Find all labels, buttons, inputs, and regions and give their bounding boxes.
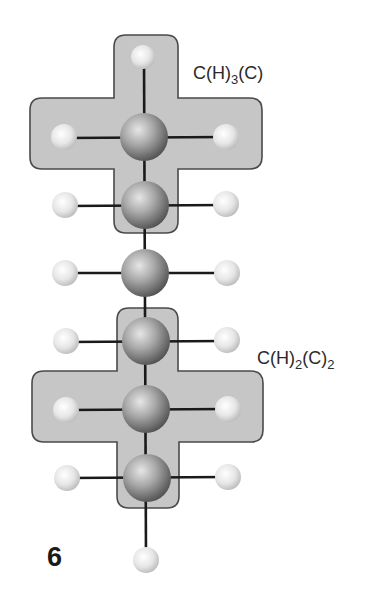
label-text: (C) bbox=[238, 63, 263, 83]
hydrogen-atom bbox=[213, 191, 239, 217]
label-subscript: 2 bbox=[327, 357, 334, 372]
carbon-atom bbox=[122, 385, 170, 433]
carbon-atom bbox=[122, 317, 170, 365]
hydrogen-atom bbox=[214, 327, 240, 353]
hydrogen-atom bbox=[215, 396, 241, 422]
methylene-group-label: C(H)2(C)2 bbox=[257, 349, 334, 367]
hydrogen-atom bbox=[214, 260, 240, 286]
hydrogen-atom bbox=[51, 124, 77, 150]
methyl-group-label: C(H)3(C) bbox=[193, 64, 263, 82]
carbon-atom bbox=[121, 249, 169, 297]
label-text: C(H) bbox=[193, 63, 231, 83]
hydrogen-atom bbox=[53, 328, 79, 354]
hydrogen-atom bbox=[131, 45, 155, 69]
carbon-atom bbox=[120, 113, 168, 161]
carbon-atom bbox=[121, 181, 169, 229]
figure-number: 6 bbox=[47, 544, 62, 571]
hydrogen-atom bbox=[133, 547, 159, 573]
hydrogen-atom bbox=[215, 464, 241, 490]
hydrogen-atom bbox=[213, 124, 239, 150]
carbon-atom bbox=[123, 454, 171, 502]
hydrogen-atom bbox=[54, 465, 80, 491]
hydrogen-atom bbox=[52, 260, 78, 286]
molecule-diagram bbox=[0, 0, 375, 606]
hydrogen-atom bbox=[53, 397, 79, 423]
hydrogen-atom bbox=[52, 192, 78, 218]
label-text: (C) bbox=[302, 348, 327, 368]
label-text: C(H) bbox=[257, 348, 295, 368]
